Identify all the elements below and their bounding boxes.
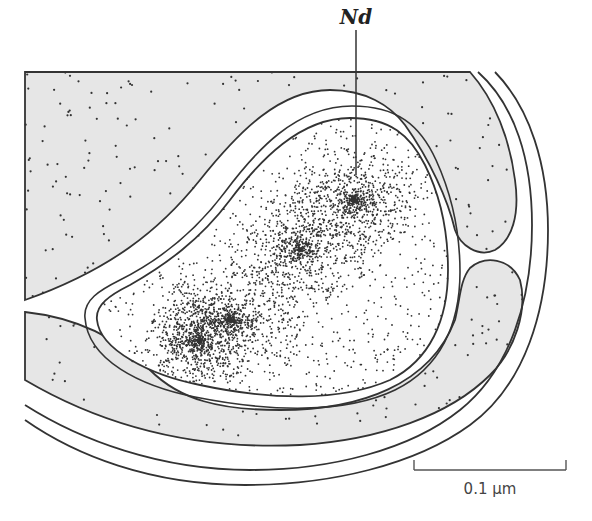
diagram: Nd 0.1 µm	[0, 0, 592, 521]
nucleoid-label: Nd	[339, 5, 372, 29]
scale-bar-label: 0.1 µm	[464, 480, 517, 498]
scale-bar: 0.1 µm	[414, 460, 566, 498]
